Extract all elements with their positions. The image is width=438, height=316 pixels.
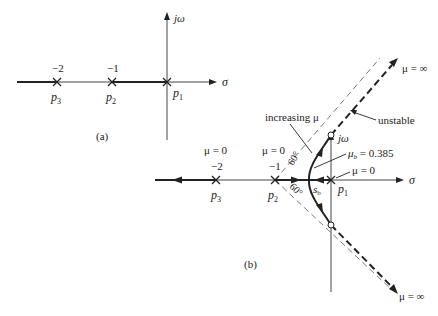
p2-label: p2 xyxy=(267,188,278,204)
diagram-a: −2 −1 p3 p2 p1 jω σ (a) xyxy=(17,12,229,143)
crossing-upper-circle xyxy=(328,132,334,138)
p3-label: p3 xyxy=(50,90,61,106)
caption-a: (a) xyxy=(96,130,109,143)
p1-mu-label: μ = 0 xyxy=(352,164,376,176)
sb-label: sb xyxy=(313,183,321,197)
mu-inf-bottom: μ = ∞ xyxy=(399,290,425,302)
p2-label: p2 xyxy=(105,90,116,106)
asymptote-lower xyxy=(275,180,392,290)
lower-arrow-icon xyxy=(389,284,398,294)
unstable-pointer xyxy=(353,112,376,120)
p3-label: p3 xyxy=(210,188,221,204)
increasing-pointer xyxy=(290,124,312,153)
unstable-label: unstable xyxy=(378,114,415,126)
p2-value: −1 xyxy=(107,62,119,74)
sigma-label-b: σ xyxy=(409,173,416,187)
angle-upper: 60° xyxy=(285,149,302,167)
unstable-arrow-icon xyxy=(350,110,357,115)
caption-b: (b) xyxy=(244,258,257,271)
mu-b-pointer xyxy=(314,154,346,168)
p1-label: p1 xyxy=(172,86,183,102)
p2-value: −1 xyxy=(269,160,281,172)
sigma-arrow-icon xyxy=(396,177,404,183)
p3-value: −2 xyxy=(52,62,64,74)
p1-mu-pointer xyxy=(336,172,350,178)
sigma-arrow-icon xyxy=(209,79,217,85)
root-locus-figure: −2 −1 p3 p2 p1 jω σ (a) xyxy=(0,0,438,316)
crossing-lower-circle xyxy=(328,222,334,228)
angle-lower: 60° xyxy=(288,181,306,199)
p2-mu-label: μ = 0 xyxy=(262,144,286,156)
increasing-mu-label: increasing μ xyxy=(265,111,319,123)
diagram-b: μ = 0 μ = 0 −2 −1 p3 p2 p1 sb 60° 60° in… xyxy=(155,58,428,302)
left-arrow-icon xyxy=(172,177,182,184)
jw-label-b: jω xyxy=(336,132,349,144)
p1-label: p1 xyxy=(337,182,348,198)
sigma-label: σ xyxy=(222,75,229,89)
jw-arrow-icon xyxy=(164,12,170,20)
jw-label: jω xyxy=(172,12,185,24)
p3-value: −2 xyxy=(211,160,223,172)
mu-inf-top: μ = ∞ xyxy=(402,62,428,74)
unstable-branch-lower xyxy=(331,225,392,287)
mu-b-label: μb = 0.385 xyxy=(347,147,394,161)
p3-mu-label: μ = 0 xyxy=(204,144,228,156)
